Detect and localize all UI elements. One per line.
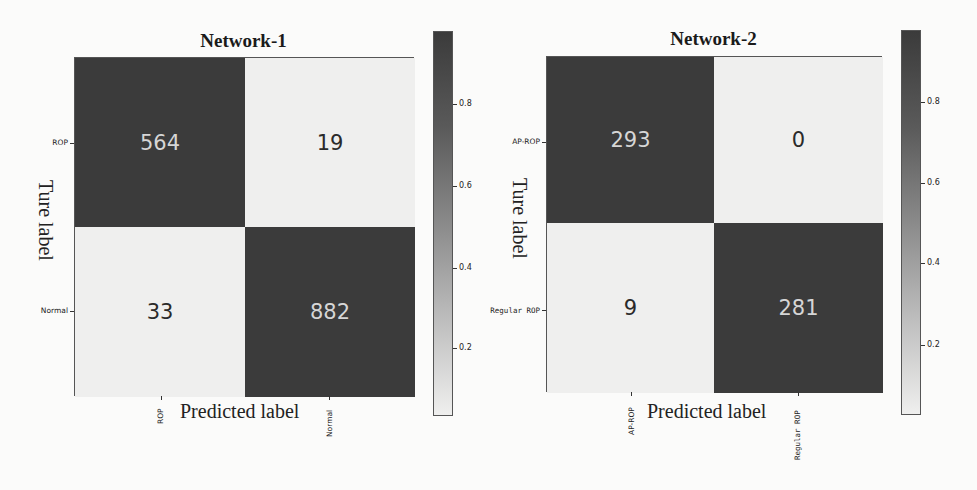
chart-title: Network-2	[546, 28, 881, 50]
colorbar-tick-label: 0.8	[927, 97, 940, 106]
colorbar-tick-label: 0.6	[927, 178, 940, 187]
y-axis-label: Ture label	[508, 178, 531, 259]
colorbar-tick	[921, 102, 925, 103]
ytick-label: AP-ROP	[512, 137, 540, 146]
cell-tn: 882	[245, 227, 415, 397]
colorbar-tick-label: 0.2	[459, 343, 472, 352]
ytick-mark	[542, 142, 546, 143]
colorbar-tick	[921, 345, 925, 346]
cell-tn: 281	[714, 223, 883, 393]
colorbar-tick-label: 0.8	[459, 99, 472, 108]
colorbar-tick-label: 0.2	[927, 340, 940, 349]
colorbar-tick	[453, 186, 457, 187]
cell-tp: 564	[75, 58, 245, 227]
colorbar-tick	[453, 268, 457, 269]
y-axis-label: Ture label	[34, 180, 57, 261]
xtick-label: ROP	[156, 408, 165, 424]
colorbar-tick-label: 0.6	[459, 181, 472, 190]
colorbar-tick	[453, 104, 457, 105]
colorbar-tick	[453, 348, 457, 349]
xtick-mark	[161, 396, 162, 400]
ytick-mark	[70, 311, 74, 312]
ytick-label: Regular ROP	[490, 306, 540, 315]
ytick-mark	[70, 143, 74, 144]
xtick-label: Regular ROP	[793, 410, 802, 460]
colorbar	[901, 30, 921, 415]
confusion-matrix: 293 0 9 281	[546, 56, 882, 392]
colorbar-tick	[921, 263, 925, 264]
xtick-mark	[631, 392, 632, 396]
ytick-mark	[542, 310, 546, 311]
cell-fn: 19	[245, 58, 415, 227]
xtick-label: Normal	[325, 410, 334, 437]
confusion-matrix: 564 19 33 882	[74, 57, 414, 396]
cell-fp: 9	[547, 223, 714, 393]
colorbar-tick-label: 0.4	[927, 258, 940, 267]
xtick-mark	[798, 392, 799, 396]
colorbar	[433, 31, 453, 416]
xtick-label: AP-ROP	[627, 407, 636, 435]
xtick-mark	[329, 396, 330, 400]
ytick-label: ROP	[52, 138, 68, 147]
cell-fn: 0	[714, 57, 883, 223]
colorbar-tick	[921, 183, 925, 184]
cell-tp: 293	[547, 57, 714, 223]
chart-title: Network-1	[74, 30, 413, 52]
cell-fp: 33	[75, 227, 245, 397]
ytick-label: Normal	[41, 306, 68, 315]
x-axis-label: Predicted label	[647, 400, 766, 423]
colorbar-tick-label: 0.4	[459, 263, 472, 272]
x-axis-label: Predicted label	[180, 400, 299, 423]
